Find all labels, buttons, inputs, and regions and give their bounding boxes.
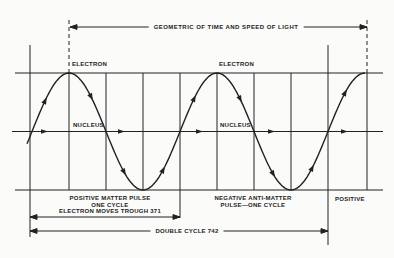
axis-arrow-icon <box>196 129 203 134</box>
double-cycle-label: DOUBLE CYCLE 742 <box>150 228 223 235</box>
wave-arrow-icon <box>341 88 349 97</box>
arrowhead-right-icon <box>360 25 367 30</box>
axis-arrow-icon <box>268 129 275 134</box>
negative-pulse-caption: NEGATIVE ANTI-MATTER PULSE—ONE CYCLE <box>214 195 291 208</box>
arrowhead-left-icon <box>30 229 37 234</box>
wave-arrow-icon <box>41 96 49 105</box>
wave-arrow-icon <box>159 165 167 174</box>
positive-pulse-line3: ELECTRON MOVES TROUGH 371 <box>59 208 161 215</box>
wave-arrow-icon <box>308 164 316 173</box>
arrowhead-left-icon <box>70 25 77 30</box>
wave-arrow-icon <box>120 168 128 177</box>
wave-direction-arrows <box>41 88 349 178</box>
wave-arrow-icon <box>87 93 95 102</box>
arrowhead-right-icon <box>321 229 328 234</box>
geometric-dimension-label: GEOMETRIC OF TIME AND SPEED OF LIGHT <box>149 24 304 31</box>
wave-arrow-icon <box>269 170 277 179</box>
wave-arrow-icon <box>236 95 244 104</box>
negative-pulse-line1: NEGATIVE ANTI-MATTER <box>214 195 291 202</box>
positive-pulse-caption: POSITIVE MATTER PULSE ONE CYCLE ELECTRON… <box>59 195 161 215</box>
electron-label-1: ELECTRON <box>72 61 107 68</box>
wave-diagram-canvas <box>0 0 394 258</box>
axis-arrow-icon <box>41 129 48 134</box>
electron-label-2: ELECTRON <box>219 61 254 68</box>
arrowhead-right-icon <box>173 215 180 220</box>
arrowhead-left-icon <box>30 215 37 220</box>
wave-diagram: GEOMETRIC OF TIME AND SPEED OF LIGHT ELE… <box>0 0 394 258</box>
axis-arrow-icon <box>118 129 125 134</box>
wave-arrow-icon <box>190 94 198 103</box>
negative-pulse-line2: PULSE—ONE CYCLE <box>214 202 291 209</box>
nucleus-label-2: NUCLEUS <box>220 122 251 129</box>
positive-right-label: POSITIVE <box>335 196 365 203</box>
axis-arrow-icon <box>341 129 348 134</box>
positive-pulse-line1: POSITIVE MATTER PULSE <box>59 195 161 202</box>
nucleus-label-1: NUCLEUS <box>73 122 104 129</box>
